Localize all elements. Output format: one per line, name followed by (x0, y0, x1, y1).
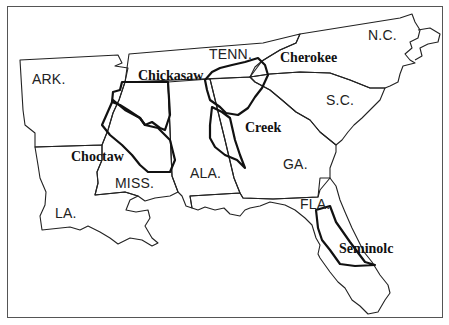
state-label-la: LA. (55, 205, 77, 221)
state-label-nc: N.C. (368, 27, 397, 43)
state-label-ala: ALA. (190, 165, 221, 181)
territory-creek (210, 107, 245, 168)
territory-seminole (316, 206, 375, 266)
state-ala (168, 79, 240, 208)
tribe-label-choctaw: Choctaw (71, 149, 124, 165)
state-label-miss: MISS. (115, 175, 154, 191)
tribe-label-chickasaw: Chickasaw (138, 68, 203, 84)
state-label-tenn: TENN. (209, 46, 252, 62)
tribe-label-seminole: Seminolc (339, 241, 393, 257)
tribe-label-creek: Creek (245, 120, 281, 136)
tribe-label-cherokee: Cherokee (280, 50, 337, 66)
state-label-fla: FLA. (300, 196, 330, 212)
state-label-ark: ARK. (32, 71, 65, 87)
state-label-sc: S.C. (326, 92, 354, 108)
state-ga (210, 77, 336, 199)
state-label-ga: GA. (283, 156, 308, 172)
territory-cherokee (205, 58, 268, 115)
